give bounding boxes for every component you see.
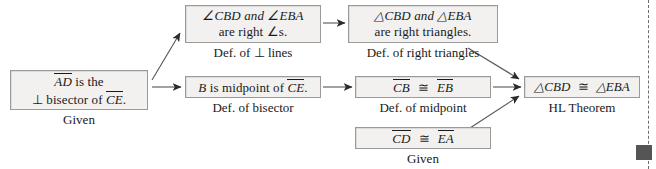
arrow-given-to-right-angles [152, 33, 180, 80]
given-bisector-line2-mid: bisector of [43, 92, 106, 107]
node-given-bisector[interactable]: AD is the ⊥ bisector of CE. [10, 70, 148, 110]
congruent-icon-cb-eb: ≅ [410, 80, 437, 95]
given-bisector-line1-rest: is the [72, 74, 104, 89]
node-cd-ea-line1: CD≅EA [392, 129, 453, 147]
node-right-triangles-line1: △CBD and △EBA [374, 8, 471, 24]
node-given-bisector-line2: ⊥ bisector of CE. [32, 90, 126, 108]
node-right-angles[interactable]: ∠CBD and ∠EBA are right ∠s. [185, 5, 321, 43]
reason-cd-ea: Given [350, 151, 496, 166]
node-given-bisector-line1: AD is the [54, 72, 103, 90]
reason-midpoint: Def. of bisector [183, 100, 323, 115]
reason-right-triangles: Def. of right triangles [344, 45, 502, 60]
segment-CD: CD [392, 130, 410, 146]
node-right-triangles-line2: are right triangles. [375, 24, 472, 40]
given-bisector-line2-end: . [123, 92, 126, 107]
segment-EA: EA [438, 130, 454, 146]
page-corner-marker [636, 145, 652, 160]
node-conclusion[interactable]: △CBD≅△EBA [524, 76, 640, 98]
segment-CB: CB [393, 79, 410, 95]
node-cd-congruent-ea[interactable]: CD≅EA [355, 127, 491, 149]
congruent-icon-cd-ea: ≅ [411, 131, 438, 146]
midpoint-line1-mid: is midpoint of [206, 80, 287, 95]
segment-CE: CE [106, 91, 123, 107]
node-right-angles-line1: ∠CBD and ∠EBA [202, 8, 303, 24]
node-midpoint[interactable]: B is midpoint of CE. [185, 76, 321, 98]
triangle-EBA: △EBA [596, 79, 630, 94]
node-conclusion-line1: △CBD≅△EBA [534, 79, 630, 95]
page-margin-dashed-rule [648, 0, 649, 169]
perpendicular-icon: ⊥ [32, 92, 43, 107]
reason-given-bisector: Given [10, 112, 148, 127]
reason-conclusion: HL Theorem [520, 100, 644, 115]
segment-CE-midpoint: CE [287, 79, 304, 95]
midpoint-line1-end: . [304, 80, 307, 95]
segment-AD: AD [54, 73, 72, 89]
node-right-triangles[interactable]: △CBD and △EBA are right triangles. [348, 5, 498, 43]
node-midpoint-line1: B is midpoint of CE. [198, 78, 307, 96]
reason-right-angles: Def. of ⊥ lines [183, 45, 323, 60]
congruent-icon-conclusion: ≅ [571, 79, 596, 94]
segment-EB: EB [437, 79, 453, 95]
node-cb-congruent-eb[interactable]: CB≅EB [355, 76, 491, 98]
node-right-angles-line2: are right ∠s. [219, 24, 288, 40]
reason-cb-eb: Def. of midpoint [350, 100, 496, 115]
triangle-CBD: △CBD [534, 79, 570, 94]
proof-diagram-canvas: AD is the ⊥ bisector of CE. Given ∠CBD a… [0, 0, 656, 169]
node-cb-eb-line1: CB≅EB [393, 78, 453, 96]
